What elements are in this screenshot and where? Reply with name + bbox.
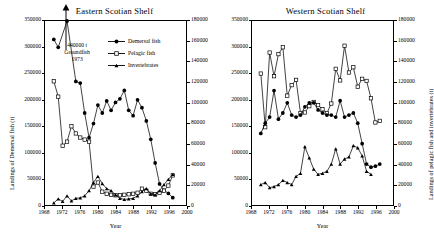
data-point: [356, 85, 359, 88]
y-axis-right-tick-mark: [394, 144, 397, 145]
y-axis-left-tick-label: 250000: [217, 70, 248, 76]
data-point: [144, 119, 148, 123]
data-point: [100, 182, 104, 185]
data-point: [321, 111, 325, 115]
data-point: [136, 191, 139, 194]
data-point: [167, 192, 171, 196]
y-axis-left-tick-label: 350000: [10, 17, 41, 23]
y-axis-right-tick-mark: [187, 20, 190, 21]
y-axis-right-tick-label: 20000: [191, 182, 205, 188]
data-point: [334, 67, 337, 70]
x-axis-tick-mark: [187, 206, 188, 209]
data-point: [378, 119, 381, 122]
y-axis-right-tick-label: 180000: [398, 17, 415, 23]
data-point: [136, 98, 140, 102]
x-axis-title: Year: [44, 222, 187, 229]
data-point: [369, 97, 372, 100]
data-point: [70, 125, 73, 128]
x-axis-title: Year: [251, 222, 394, 229]
data-point: [92, 181, 96, 184]
data-point: [259, 132, 263, 136]
data-point: [144, 187, 148, 190]
y-axis-left-tick-mark: [249, 20, 252, 21]
y-axis-right-tick-mark: [187, 61, 190, 62]
data-point: [312, 168, 316, 171]
data-point: [114, 101, 118, 105]
panel-western-scotian-shelf: Western Scotian Shelf 050000100000150000…: [215, 0, 430, 244]
y-axis-right-tick-mark: [394, 20, 397, 21]
data-point: [131, 192, 134, 195]
data-point: [127, 193, 130, 196]
data-point: [277, 117, 281, 121]
y-axis-left-tick-label: 50000: [217, 176, 248, 182]
x-axis-tick-mark: [358, 206, 359, 209]
data-point: [259, 183, 263, 186]
y-axis-left-tick-mark: [42, 179, 45, 180]
data-point: [360, 154, 364, 157]
data-point: [56, 197, 60, 200]
panel-title-western: Western Scotian Shelf: [215, 6, 430, 16]
x-axis-tick-mark: [80, 206, 81, 209]
y-axis-left-tick-label: 100000: [217, 150, 248, 156]
x-axis-tick-label: 2000: [176, 210, 198, 216]
data-point: [57, 95, 60, 98]
data-point: [290, 83, 293, 86]
y-axis-right-tick-label: 100000: [398, 100, 415, 106]
y-axis-right-tick-label: 80000: [191, 120, 205, 126]
data-point: [299, 113, 303, 117]
data-point: [167, 184, 170, 187]
plot-svg-western: [252, 21, 393, 205]
x-axis-tick-mark: [151, 206, 152, 209]
y-axis-left-tick-label: 0: [10, 203, 41, 209]
data-point: [105, 99, 109, 103]
legend-item-filled-circle: Demersal fish: [108, 38, 160, 45]
data-point: [87, 140, 90, 143]
data-point: [378, 162, 382, 166]
data-point: [316, 108, 320, 112]
data-point: [118, 97, 122, 101]
data-point: [303, 111, 306, 114]
data-point: [272, 75, 275, 78]
data-point: [74, 132, 77, 135]
y-axis-right-tick-label: 0: [191, 203, 194, 209]
y-axis-right-tick-label: 60000: [398, 141, 412, 147]
data-point: [96, 103, 100, 107]
data-point: [83, 111, 87, 115]
legend-marker-filled-circle-icon: [108, 38, 125, 45]
data-point: [109, 189, 113, 192]
y-axis-left-tick-mark: [249, 153, 252, 154]
y-axis-right-tick-mark: [394, 61, 397, 62]
x-axis-tick-mark: [323, 206, 324, 209]
data-point: [92, 122, 96, 126]
legend-label: Pelagic fish: [128, 51, 155, 57]
data-point: [109, 193, 112, 196]
x-axis-tick-mark: [287, 206, 288, 209]
annotation-text: 440000 tGroundfish1973: [64, 42, 89, 63]
x-axis-tick-mark: [340, 206, 341, 209]
data-point: [272, 89, 276, 93]
legend-item-filled-triangle: Invertebrates: [108, 62, 160, 69]
data-point: [329, 162, 333, 165]
x-axis-tick-mark: [98, 206, 99, 209]
data-point: [259, 72, 262, 75]
data-point: [65, 194, 69, 197]
data-point: [277, 52, 280, 55]
series-line-pelagic-fish: [261, 46, 380, 127]
y-axis-right-tick-label: 120000: [398, 79, 415, 85]
data-point: [162, 189, 165, 192]
data-point: [365, 79, 368, 82]
y-axis-right-tick-mark: [394, 165, 397, 166]
series-line-pelagic-fish: [54, 81, 173, 195]
data-point: [352, 66, 355, 69]
legend-label: Demersal fish: [128, 39, 160, 45]
data-point: [285, 101, 289, 105]
data-point: [321, 108, 324, 111]
data-point: [268, 51, 271, 54]
y-axis-right-title: Landings of pelagic fish and invertebrat…: [427, 89, 434, 200]
data-point: [158, 189, 162, 192]
data-point: [307, 156, 311, 159]
data-point: [83, 138, 86, 141]
y-axis-left-tick-mark: [42, 47, 45, 48]
data-point: [118, 194, 121, 197]
